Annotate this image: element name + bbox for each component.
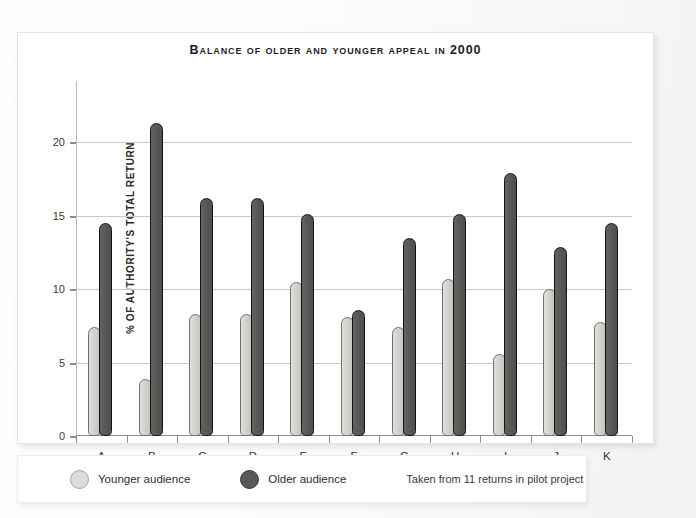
x-tick-mark — [278, 436, 279, 443]
legend-label-younger: Younger audience — [98, 473, 190, 485]
legend-card: Younger audience Older audience Taken fr… — [17, 455, 587, 503]
bar-group — [240, 198, 264, 436]
y-tick-label: 15 — [53, 210, 65, 222]
x-tick-label-k: K — [603, 450, 611, 462]
x-tick-mark — [581, 436, 582, 443]
legend-swatch-younger-icon — [70, 470, 89, 489]
x-tick-mark — [127, 436, 128, 443]
bar-j-older[interactable] — [554, 247, 567, 436]
bar-group — [392, 238, 416, 436]
legend-swatch-older-icon — [240, 470, 259, 489]
y-tick-mark — [70, 142, 76, 144]
page-title: Balance of older and younger appeal in 2… — [18, 43, 653, 57]
x-tick-mark — [177, 436, 178, 443]
legend-note: Taken from 11 returns in pilot project — [406, 473, 583, 485]
bar-group — [341, 310, 365, 436]
y-tick-label: 10 — [53, 283, 65, 295]
bar-group — [594, 223, 618, 436]
bar-group — [139, 123, 163, 436]
y-tick-mark — [70, 216, 76, 218]
bar-h-older[interactable] — [453, 214, 466, 436]
y-tick-label: 5 — [59, 357, 65, 369]
bar-e-older[interactable] — [301, 214, 314, 436]
bar-g-older[interactable] — [403, 238, 416, 436]
x-tick-mark — [632, 436, 633, 443]
x-tick-mark — [531, 436, 532, 443]
plot-area: 05101520 ABCDEFGHIJK — [76, 91, 632, 436]
legend-row: Younger audience Older audience Taken fr… — [18, 456, 586, 502]
chart-page: Balance of older and younger appeal in 2… — [0, 0, 696, 518]
bar-group — [543, 247, 567, 436]
y-tick-label: 20 — [53, 136, 65, 148]
bar-b-older[interactable] — [150, 123, 163, 436]
bar-group — [442, 214, 466, 436]
x-tick-mark — [76, 436, 77, 443]
chart-card: Balance of older and younger appeal in 2… — [17, 32, 654, 444]
bar-group — [189, 198, 213, 436]
bar-f-older[interactable] — [352, 310, 365, 436]
bar-group — [290, 214, 314, 436]
bar-group — [493, 173, 517, 436]
x-tick-mark — [430, 436, 431, 443]
plot-inner: 05101520 ABCDEFGHIJK — [76, 91, 632, 436]
bar-group — [88, 223, 112, 436]
y-tick-label: 0 — [59, 430, 65, 442]
bar-d-older[interactable] — [251, 198, 264, 436]
bar-k-older[interactable] — [605, 223, 618, 436]
y-tick-mark — [70, 289, 76, 291]
x-tick-mark — [329, 436, 330, 443]
legend-label-older: Older audience — [268, 473, 346, 485]
x-tick-mark — [228, 436, 229, 443]
y-tick-mark — [70, 363, 76, 365]
legend-item-older[interactable]: Older audience — [240, 470, 346, 489]
x-tick-mark — [379, 436, 380, 443]
legend-item-younger[interactable]: Younger audience — [70, 470, 190, 489]
x-tick-mark — [480, 436, 481, 443]
bar-c-older[interactable] — [200, 198, 213, 436]
bar-i-older[interactable] — [504, 173, 517, 436]
y-axis-line — [76, 81, 77, 436]
bar-a-older[interactable] — [99, 223, 112, 436]
